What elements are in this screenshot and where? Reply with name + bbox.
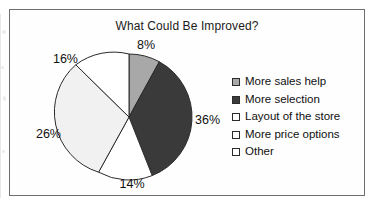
legend-swatch-icon [232, 78, 240, 86]
pie-label-more-sales-help: 8% [137, 38, 155, 52]
legend-swatch-icon [232, 131, 240, 139]
chart-figure-frame: What Could Be Improved? 8% 36% 14% 26% [9, 9, 365, 196]
legend-label: Other [245, 146, 274, 158]
scan-speck-icon [2, 150, 5, 153]
legend-item-more-price-options[interactable]: More price options [232, 127, 364, 143]
chart-title: What Could Be Improved? [10, 19, 364, 33]
legend-item-more-sales-help[interactable]: More sales help [232, 74, 364, 90]
chart-legend: More sales help More selection Layout of… [232, 74, 364, 162]
legend-label: More price options [245, 129, 340, 141]
pie-label-layout-of-the-store: 14% [119, 177, 144, 190]
pie-label-other: 16% [53, 52, 78, 66]
legend-label: More sales help [245, 76, 326, 88]
legend-item-other[interactable]: Other [232, 144, 364, 160]
scan-edge-artifact [0, 14, 1, 198]
pie-svg: 8% 36% 14% 26% 16% [32, 38, 232, 190]
scan-speck-icon [1, 66, 4, 69]
pie-slices [54, 52, 192, 180]
legend-swatch-icon [232, 148, 240, 156]
legend-swatch-icon [232, 96, 240, 104]
legend-swatch-icon [232, 113, 240, 121]
pie-label-more-selection: 36% [195, 113, 220, 127]
pie-chart: 8% 36% 14% 26% 16% [32, 38, 232, 190]
pie-label-more-price-options: 26% [36, 127, 61, 141]
legend-item-more-selection[interactable]: More selection [232, 92, 364, 108]
legend-label: More selection [245, 94, 320, 106]
scan-speck-icon [2, 30, 6, 34]
legend-item-layout-of-the-store[interactable]: Layout of the store [232, 109, 364, 125]
scan-speck-icon [3, 96, 6, 101]
legend-label: Layout of the store [245, 111, 340, 123]
